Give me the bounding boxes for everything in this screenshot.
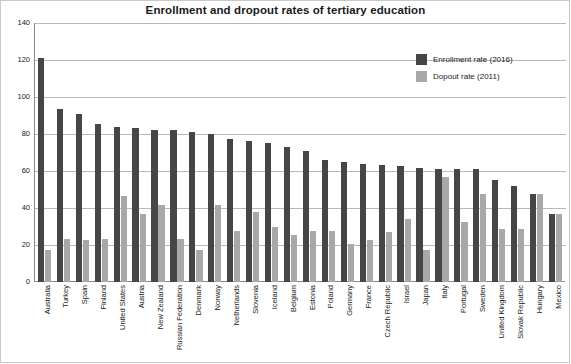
x-axis-tick-label: Italy — [441, 285, 449, 299]
x-axis-tick-label: Finland — [100, 285, 108, 310]
bar-chart-figure: Enrollment and dropout rates of tertiary… — [0, 0, 571, 364]
x-axis-tick-label: Austria — [138, 285, 146, 308]
bar — [367, 240, 373, 282]
bar — [518, 229, 524, 282]
bar — [234, 231, 240, 282]
legend-swatch-icon — [416, 71, 427, 82]
x-axis-tick-label: Russian Federation — [176, 285, 184, 350]
x-axis-tick-label: Estonia — [309, 285, 317, 310]
bar — [499, 229, 505, 282]
legend-item-label: Dopout rate (2011) — [433, 72, 500, 81]
bar — [38, 58, 44, 282]
bar — [45, 250, 51, 282]
bar — [379, 165, 385, 282]
y-axis-tick-label: 0 — [2, 278, 30, 286]
bar — [360, 164, 366, 282]
bar — [322, 160, 328, 282]
bar — [435, 169, 441, 282]
x-axis-tick-label: Netherlands — [233, 285, 241, 325]
y-axis-tick-label: 140 — [2, 19, 30, 27]
bar — [405, 219, 411, 282]
bar — [329, 231, 335, 282]
y-axis-tick-label: 60 — [2, 167, 30, 175]
bar — [170, 130, 176, 282]
x-axis-tick-label: Belgium — [290, 285, 298, 312]
bar — [132, 128, 138, 282]
bar — [227, 139, 233, 282]
x-axis-tick-label: Poland — [327, 285, 335, 308]
bar — [492, 180, 498, 282]
x-axis-tick-label: Slovak Republic — [517, 285, 525, 339]
bar — [272, 227, 278, 282]
bar — [454, 169, 460, 282]
y-axis-tick-label: 80 — [2, 130, 30, 138]
x-axis-tick-label: Israel — [403, 285, 411, 303]
x-axis-tick-label: Slovenia — [252, 285, 260, 314]
x-axis-tick-label: Czech Republic — [384, 285, 392, 338]
bar — [121, 196, 127, 282]
bar — [416, 168, 422, 282]
bar — [253, 212, 259, 282]
x-axis-tick-label: France — [365, 285, 373, 308]
y-axis-tick-label: 20 — [2, 241, 30, 249]
x-axis-tick-label: Hungary — [536, 285, 544, 313]
bar — [310, 231, 316, 282]
legend-item: Enrollment rate (2016) — [416, 54, 558, 65]
x-axis-tick-label: New Zealand — [157, 285, 165, 329]
bar — [196, 250, 202, 282]
x-axis-tick-label: Norway — [214, 285, 222, 310]
bar — [76, 114, 82, 282]
bar — [114, 127, 120, 282]
bar — [95, 124, 101, 282]
bar — [284, 147, 290, 282]
x-axis-tick-label: Australia — [44, 285, 52, 314]
bar — [348, 244, 354, 282]
x-axis-tick-label: United Kingdom — [498, 285, 506, 338]
bar — [291, 235, 297, 282]
bar — [442, 177, 448, 282]
x-axis-tick-label: Iceland — [271, 285, 279, 309]
y-axis-tick-label: 40 — [2, 204, 30, 212]
bar — [140, 214, 146, 282]
bar — [57, 109, 63, 282]
bar — [102, 239, 108, 282]
legend-item: Dopout rate (2011) — [416, 71, 558, 82]
bar — [549, 214, 555, 282]
x-axis-tick-label: Japan — [422, 285, 430, 305]
bar — [151, 130, 157, 282]
x-axis-tick-label: Turkey — [62, 285, 70, 308]
legend-item-label: Enrollment rate (2016) — [433, 55, 513, 64]
x-axis-tick-label: United States — [119, 285, 127, 330]
bar — [397, 166, 403, 282]
bar — [386, 232, 392, 282]
bar — [64, 239, 70, 282]
bar — [530, 194, 536, 282]
bar — [215, 205, 221, 282]
bar — [423, 250, 429, 282]
x-axis-labels: AustraliaTurkeySpainFinlandUnited States… — [35, 285, 565, 364]
bar — [158, 205, 164, 282]
x-axis-tick-label: Denmark — [195, 285, 203, 315]
x-axis-tick-label: Spain — [81, 285, 89, 304]
x-axis-tick-label: Portugal — [460, 285, 468, 313]
bar — [265, 143, 271, 282]
bar — [303, 151, 309, 282]
bar — [556, 214, 562, 282]
chart-legend: Enrollment rate (2016)Dopout rate (2011) — [416, 54, 558, 88]
x-axis-tick-label: Mexico — [555, 285, 563, 309]
bar — [537, 194, 543, 282]
y-axis-tick-label: 120 — [2, 56, 30, 64]
bar — [208, 134, 214, 282]
bar — [83, 240, 89, 282]
bar — [473, 169, 479, 282]
chart-title: Enrollment and dropout rates of tertiary… — [0, 4, 571, 16]
x-axis-tick-label: Sweden — [479, 285, 487, 312]
x-axis-tick-label: Germany — [346, 285, 354, 316]
bar — [461, 222, 467, 282]
bar — [480, 194, 486, 282]
bar — [246, 141, 252, 282]
bar — [511, 186, 517, 282]
bar — [189, 132, 195, 282]
legend-swatch-icon — [416, 54, 427, 65]
bar — [177, 239, 183, 282]
